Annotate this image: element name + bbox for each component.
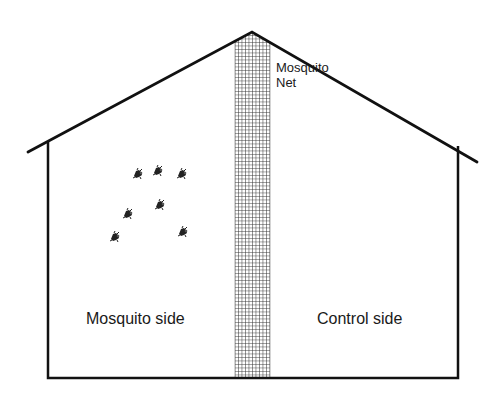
mosquito-icon [177, 168, 186, 179]
house-diagram [0, 0, 501, 400]
mosquito-icon [153, 165, 162, 176]
mosquito-icon [123, 208, 132, 219]
mosquito-icon [110, 231, 119, 242]
mosquito-icon [133, 168, 142, 179]
net-label-line-2: Net [276, 75, 329, 90]
net-label: Mosquito Net [276, 60, 329, 90]
mosquito-icon [178, 226, 187, 237]
control-side-label: Control side [317, 310, 402, 328]
mosquito-icon [155, 199, 164, 210]
mosquito-side-label: Mosquito side [86, 310, 185, 328]
mosquito-group [110, 165, 187, 242]
net-label-line-1: Mosquito [276, 60, 329, 75]
mosquito-net [235, 30, 270, 378]
